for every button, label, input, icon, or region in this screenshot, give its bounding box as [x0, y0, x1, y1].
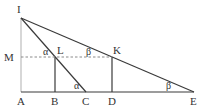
label-K: K	[113, 44, 121, 56]
label-M: M	[4, 51, 14, 63]
diagram-canvas: I M L K A B C D E α α β β	[0, 0, 208, 110]
geometry-diagram: I M L K A B C D E α α β β	[0, 0, 208, 110]
label-L: L	[57, 44, 64, 56]
label-B: B	[51, 95, 58, 107]
angle-alpha-L: α	[43, 46, 49, 57]
angle-alpha-C: α	[74, 80, 80, 91]
label-I: I	[17, 3, 21, 15]
label-D: D	[108, 95, 116, 107]
label-E: E	[190, 95, 197, 107]
label-C: C	[82, 95, 89, 107]
angle-beta-dashed: β	[86, 46, 91, 57]
angle-beta-E: β	[166, 80, 171, 91]
label-A: A	[17, 95, 25, 107]
